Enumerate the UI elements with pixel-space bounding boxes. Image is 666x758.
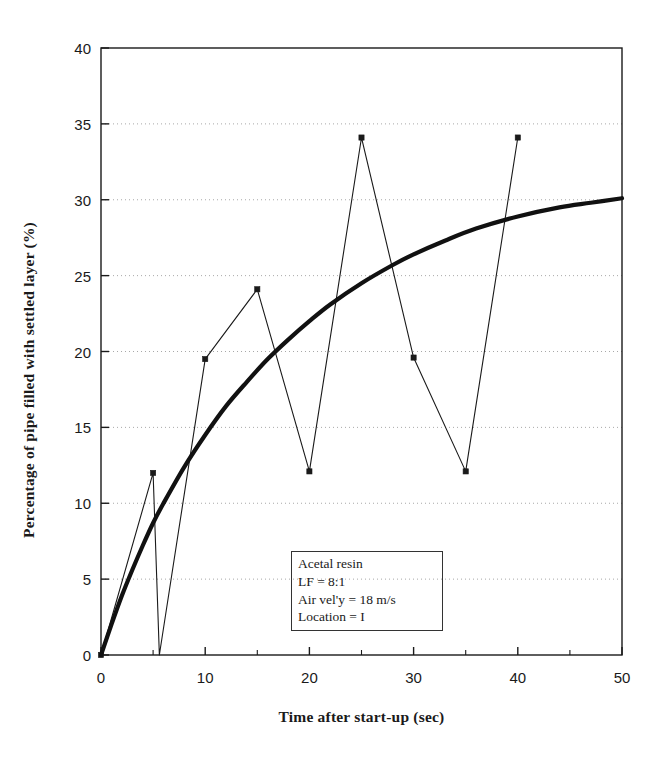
annotation-line-material: Acetal resin [298,555,437,573]
annotation-textbox: Acetal resin LF = 8:1 Air vel'y = 18 m/s… [291,551,443,631]
gridlines [101,124,622,579]
y-tick-label: 25 [74,267,91,284]
x-tick-label: 0 [97,669,105,686]
x-tick-label: 20 [301,669,318,686]
x-axis-label: Time after start-up (sec) [101,708,622,726]
y-tick-label: 5 [83,571,91,588]
x-tick-label: 50 [614,669,631,686]
plot-area [0,0,666,758]
y-tick-label: 30 [74,191,91,208]
annotation-line-air-velocity: Air vel'y = 18 m/s [298,591,437,609]
annotation-line-location: Location = I [298,608,437,626]
x-tick-label: 30 [405,669,422,686]
y-tick-label: 40 [74,40,91,57]
y-tick-label: 35 [74,115,91,132]
y-tick-label: 0 [83,647,91,664]
annotation-line-loading-factor: LF = 8:1 [298,573,437,591]
y-axis-label: Percentage of pipe filled with settled l… [20,70,60,690]
y-tick-label: 20 [74,343,91,360]
x-tick-label: 40 [509,669,526,686]
y-tick-label: 10 [74,495,91,512]
y-tick-label: 15 [74,419,91,436]
x-tick-label: 10 [197,669,214,686]
chart-figure: Percentage of pipe filled with settled l… [0,0,666,758]
